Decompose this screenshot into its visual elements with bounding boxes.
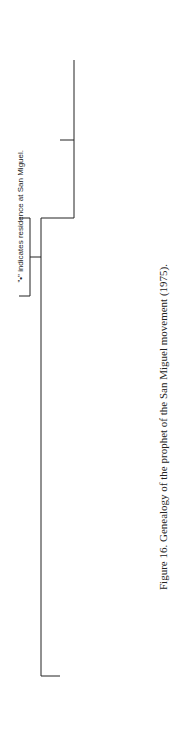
figure-caption: Figure 16. Genealogy of the prophet of t… xyxy=(157,264,169,590)
legend-text: "•" indicates residence at San Miguel. xyxy=(16,150,25,283)
